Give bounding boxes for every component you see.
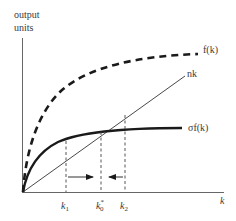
tick-k0-star: k*0 xyxy=(96,198,104,213)
tick-k1: k1 xyxy=(61,200,69,213)
depreciation-line-label: nk xyxy=(187,68,197,79)
solow-diagram: output units f(k) nk σf(k) k1 k*0 k2 k xyxy=(0,0,236,221)
y-axis-label-line2: units xyxy=(14,22,34,33)
savings-curve-sigma-fk xyxy=(23,128,182,192)
savings-curve-label: σf(k) xyxy=(188,122,208,134)
depreciation-line-nk xyxy=(23,76,185,192)
production-curve-fk xyxy=(23,54,198,192)
y-axis-label-line1: output xyxy=(14,9,40,20)
production-curve-label: f(k) xyxy=(203,44,218,56)
tick-k2: k2 xyxy=(120,200,128,213)
x-axis-label: k xyxy=(220,195,225,206)
